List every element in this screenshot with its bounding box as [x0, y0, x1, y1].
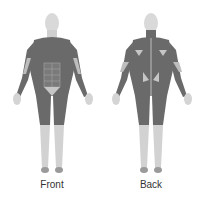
back-body-silhouette-icon	[99, 0, 198, 198]
front-body-silhouette-icon	[0, 0, 99, 198]
back-label: Back	[121, 179, 181, 190]
front-label: Front	[22, 179, 82, 190]
back-body-figure: Back	[99, 0, 198, 198]
front-body-figure: Front	[0, 0, 99, 198]
